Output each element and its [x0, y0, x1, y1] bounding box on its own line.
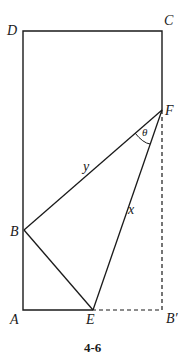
figure-caption: 4-6 — [84, 340, 102, 355]
label-B: B — [10, 224, 19, 239]
label-D: D — [6, 23, 17, 38]
folded-rectangle-diagram: D C F B A E B′ y x θ 4-6 — [0, 0, 186, 364]
label-E: E — [85, 312, 95, 327]
label-C: C — [164, 13, 174, 28]
label-B-prime: B′ — [166, 311, 179, 326]
label-theta: θ — [142, 126, 148, 138]
label-F: F — [164, 103, 174, 118]
label-y: y — [81, 159, 90, 174]
label-A: A — [9, 312, 19, 327]
segment-BE — [24, 230, 93, 310]
label-x: x — [127, 202, 135, 217]
